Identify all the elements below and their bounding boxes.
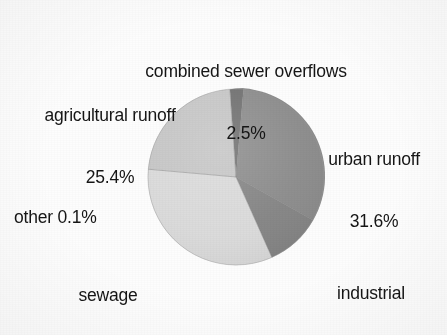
slice-label-line: other 0.1% bbox=[14, 207, 174, 228]
slice-label-line: urban runoff bbox=[306, 149, 442, 170]
slice-value-line: 31.6% bbox=[306, 211, 442, 232]
slice-label-line: sewage bbox=[8, 285, 208, 306]
pie-chart-figure: combined sewer overflows 2.5% agricultur… bbox=[0, 0, 447, 335]
slice-label-line: industrial bbox=[302, 283, 440, 304]
slice-label-industrial: industrial 10.3% bbox=[302, 242, 440, 335]
slice-label-line: agricultural runoff bbox=[16, 105, 204, 126]
slice-label-sewage-treatment-plants: sewage treatment plants 30.3% bbox=[8, 244, 208, 335]
